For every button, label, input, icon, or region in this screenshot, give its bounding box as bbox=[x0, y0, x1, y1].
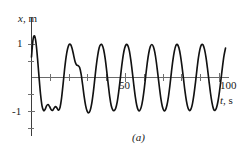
y-tick-label-1: 1 bbox=[17, 37, 23, 49]
oscillation-curve bbox=[32, 36, 226, 113]
x-axis-label-unit: , s bbox=[223, 94, 233, 106]
y-axis-label: x, m bbox=[18, 12, 37, 24]
y-tick-label-neg1: -1 bbox=[12, 105, 21, 117]
x-tick-label-50: 50 bbox=[119, 79, 130, 91]
x-tick-label-100: 100 bbox=[220, 79, 237, 91]
figure-caption: (a) bbox=[132, 131, 145, 143]
x-axis-label: t, s bbox=[220, 94, 233, 106]
figure-container: also constant for a driven oscillator. bbox=[0, 0, 242, 160]
y-axis-label-unit: , m bbox=[23, 12, 37, 24]
